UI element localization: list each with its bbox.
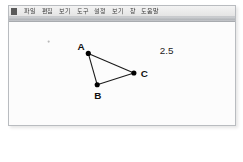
menu-item-tools[interactable]: 도구 [74,8,92,15]
segment-bc[interactable] [97,73,134,85]
menu-item-display[interactable]: 보기 [109,8,127,15]
stray-point-mark [48,41,50,43]
vertex-label-b: B [94,90,101,101]
geometry-figure: A B C 2.5 [9,22,235,125]
vertex-label-c: C [141,68,148,79]
menu-item-window[interactable]: 창 [127,8,139,15]
menu-item-view[interactable]: 보기 [56,8,74,15]
vertex-point-a[interactable] [86,51,91,56]
screenshot-root: 파일 편집 보기 도구 설정 보기 창 도움말 A B C 2.5 [0,0,243,162]
menu-item-help[interactable]: 도움말 [138,8,161,15]
menu-item-edit[interactable]: 편집 [39,8,57,15]
drawing-canvas[interactable]: A B C 2.5 [9,22,235,125]
segment-ca[interactable] [88,53,134,73]
menu-bar[interactable]: 파일 편집 보기 도구 설정 보기 창 도움말 [9,6,235,17]
measurement-value[interactable]: 2.5 [160,45,174,56]
vertex-point-c[interactable] [131,70,136,75]
vertex-point-b[interactable] [95,82,100,87]
segment-ab[interactable] [88,53,97,84]
vertex-label-a: A [77,41,84,52]
geometry-application-window: 파일 편집 보기 도구 설정 보기 창 도움말 A B C 2.5 [8,5,236,126]
menu-item-settings[interactable]: 설정 [91,8,109,15]
menu-item-file[interactable]: 파일 [21,8,39,15]
app-icon[interactable] [11,8,17,15]
